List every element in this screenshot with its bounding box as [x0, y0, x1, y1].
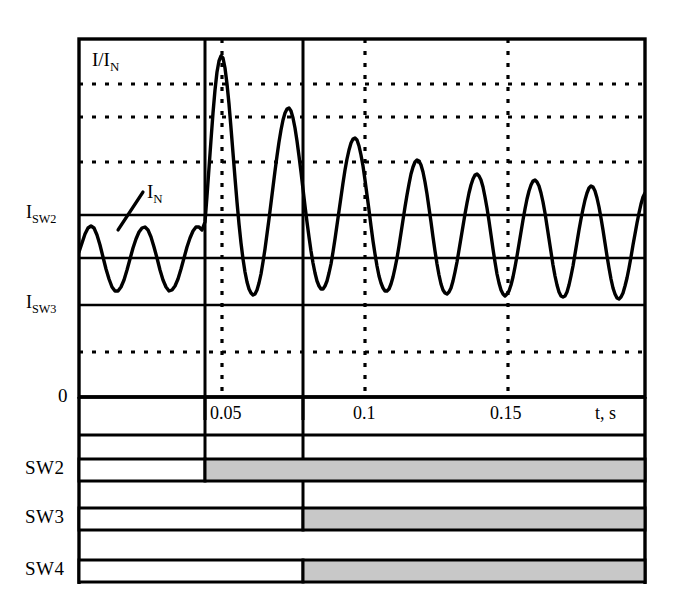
chart-canvas [0, 0, 682, 608]
sw4-open-segment [79, 560, 303, 582]
timeline-label-sw4: SW4 [25, 559, 65, 578]
timeline-sw4 [79, 560, 645, 582]
x-tick-label-0: 0.05 [210, 404, 242, 422]
y-label-isw3: ISW3 [26, 293, 56, 315]
sw3-closed-segment [303, 508, 645, 530]
rated-current-annotation: IN [147, 182, 163, 206]
sw2-closed-segment [205, 459, 645, 481]
sw2-open-segment [79, 459, 205, 481]
timeline-label-sw3: SW3 [25, 507, 65, 526]
timeline-sw3 [79, 508, 645, 530]
x-tick-label-2: 0.15 [490, 404, 522, 422]
oscillogram-figure: I/IN IN ISW2 ISW3 0 0.05 0.1 0.15 t, s S… [0, 0, 682, 608]
y-label-isw2: ISW2 [26, 203, 56, 225]
x-axis-title: t, s [595, 404, 616, 422]
x-tick-label-1: 0.1 [353, 404, 376, 422]
plot-background [79, 39, 645, 397]
y-label-zero: 0 [58, 386, 68, 405]
y-axis-title: I/IN [92, 50, 119, 74]
sw4-closed-segment [303, 560, 645, 582]
sw3-open-segment [79, 508, 303, 530]
timeline-label-sw2: SW2 [25, 458, 65, 477]
timeline-sw2 [79, 459, 645, 481]
